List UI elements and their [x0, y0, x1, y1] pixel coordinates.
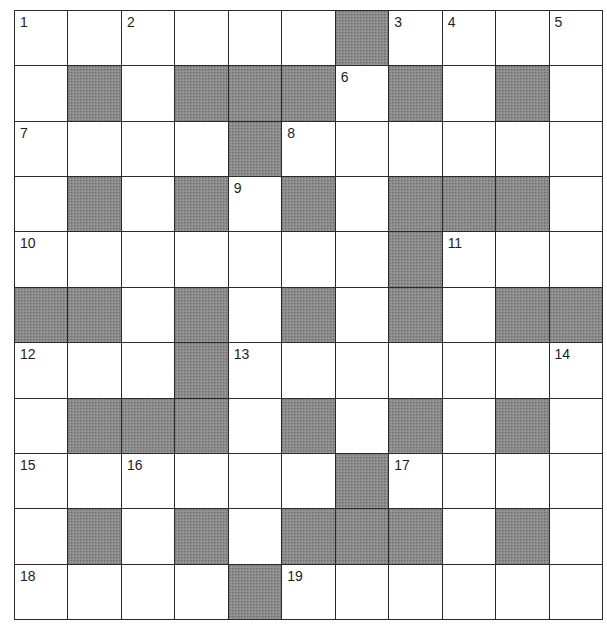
answer-cell[interactable] — [175, 454, 227, 508]
answer-cell[interactable] — [122, 565, 174, 619]
answer-cell[interactable] — [336, 565, 388, 619]
answer-cell[interactable] — [443, 288, 495, 342]
answer-cell[interactable] — [229, 288, 281, 342]
block-cell — [282, 509, 334, 563]
answer-cell[interactable] — [550, 122, 602, 176]
answer-cell[interactable] — [443, 565, 495, 619]
answer-cell[interactable] — [336, 232, 388, 286]
block-cell — [282, 66, 334, 120]
answer-cell[interactable] — [336, 288, 388, 342]
answer-cell[interactable] — [229, 11, 281, 65]
answer-cell[interactable] — [229, 454, 281, 508]
answer-cell[interactable] — [68, 11, 120, 65]
answer-cell[interactable] — [336, 177, 388, 231]
answer-cell[interactable] — [229, 509, 281, 563]
answer-cell[interactable] — [550, 454, 602, 508]
answer-cell[interactable] — [496, 565, 548, 619]
crossword-grid: 12345678910111213141516171819 — [14, 10, 603, 620]
answer-cell[interactable]: 15 — [15, 454, 67, 508]
answer-cell[interactable] — [282, 454, 334, 508]
answer-cell[interactable]: 4 — [443, 11, 495, 65]
answer-cell[interactable] — [550, 177, 602, 231]
answer-cell[interactable] — [496, 122, 548, 176]
answer-cell[interactable] — [496, 454, 548, 508]
answer-cell[interactable] — [389, 565, 441, 619]
answer-cell[interactable] — [550, 565, 602, 619]
answer-cell[interactable] — [282, 11, 334, 65]
answer-cell[interactable] — [68, 454, 120, 508]
answer-cell[interactable]: 3 — [389, 11, 441, 65]
answer-cell[interactable] — [443, 122, 495, 176]
answer-cell[interactable] — [550, 399, 602, 453]
block-cell — [282, 177, 334, 231]
answer-cell[interactable] — [229, 399, 281, 453]
answer-cell[interactable] — [443, 66, 495, 120]
answer-cell[interactable] — [122, 122, 174, 176]
answer-cell[interactable] — [68, 232, 120, 286]
clue-number: 11 — [448, 236, 463, 250]
answer-cell[interactable] — [443, 343, 495, 397]
answer-cell[interactable]: 5 — [550, 11, 602, 65]
block-cell — [496, 399, 548, 453]
answer-cell[interactable] — [282, 232, 334, 286]
answer-cell[interactable]: 13 — [229, 343, 281, 397]
answer-cell[interactable] — [443, 509, 495, 563]
answer-cell[interactable] — [336, 343, 388, 397]
answer-cell[interactable] — [443, 454, 495, 508]
answer-cell[interactable] — [496, 232, 548, 286]
answer-cell[interactable]: 19 — [282, 565, 334, 619]
answer-cell[interactable] — [68, 122, 120, 176]
answer-cell[interactable] — [122, 232, 174, 286]
block-cell — [68, 288, 120, 342]
answer-cell[interactable] — [282, 343, 334, 397]
block-cell — [389, 232, 441, 286]
answer-cell[interactable] — [336, 122, 388, 176]
answer-cell[interactable]: 6 — [336, 66, 388, 120]
answer-cell[interactable]: 14 — [550, 343, 602, 397]
answer-cell[interactable] — [122, 66, 174, 120]
answer-cell[interactable] — [175, 565, 227, 619]
answer-cell[interactable]: 1 — [15, 11, 67, 65]
answer-cell[interactable] — [496, 11, 548, 65]
answer-cell[interactable] — [175, 122, 227, 176]
answer-cell[interactable] — [15, 399, 67, 453]
answer-cell[interactable] — [550, 232, 602, 286]
block-cell — [122, 399, 174, 453]
answer-cell[interactable] — [15, 66, 67, 120]
answer-cell[interactable] — [389, 122, 441, 176]
answer-cell[interactable] — [336, 399, 388, 453]
block-cell — [336, 454, 388, 508]
answer-cell[interactable] — [175, 11, 227, 65]
answer-cell[interactable] — [122, 177, 174, 231]
answer-cell[interactable] — [68, 565, 120, 619]
block-cell — [175, 66, 227, 120]
answer-cell[interactable] — [550, 509, 602, 563]
answer-cell[interactable] — [122, 288, 174, 342]
clue-number: 5 — [555, 15, 563, 29]
answer-cell[interactable] — [496, 343, 548, 397]
answer-cell[interactable] — [122, 343, 174, 397]
answer-cell[interactable]: 11 — [443, 232, 495, 286]
answer-cell[interactable] — [15, 177, 67, 231]
answer-cell[interactable]: 2 — [122, 11, 174, 65]
answer-cell[interactable] — [15, 509, 67, 563]
block-cell — [496, 288, 548, 342]
answer-cell[interactable]: 16 — [122, 454, 174, 508]
answer-cell[interactable] — [443, 399, 495, 453]
answer-cell[interactable] — [68, 343, 120, 397]
block-cell — [282, 399, 334, 453]
answer-cell[interactable] — [389, 343, 441, 397]
answer-cell[interactable]: 18 — [15, 565, 67, 619]
answer-cell[interactable]: 9 — [229, 177, 281, 231]
answer-cell[interactable] — [175, 232, 227, 286]
answer-cell[interactable] — [550, 66, 602, 120]
answer-cell[interactable]: 7 — [15, 122, 67, 176]
answer-cell[interactable] — [122, 509, 174, 563]
answer-cell[interactable]: 12 — [15, 343, 67, 397]
block-cell — [229, 122, 281, 176]
answer-cell[interactable] — [229, 232, 281, 286]
block-cell — [68, 399, 120, 453]
answer-cell[interactable]: 17 — [389, 454, 441, 508]
answer-cell[interactable]: 8 — [282, 122, 334, 176]
answer-cell[interactable]: 10 — [15, 232, 67, 286]
